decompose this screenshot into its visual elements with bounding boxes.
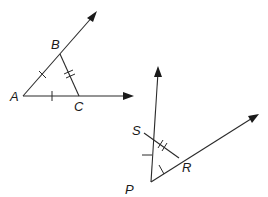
angle-p-figure: P S R (125, 66, 259, 197)
angle-a-figure: A B C (9, 11, 134, 114)
ray-ab (23, 15, 94, 96)
segment-sr (144, 133, 179, 158)
segment-bc (60, 54, 79, 96)
ray-ac-arrowhead-icon (123, 92, 134, 100)
label-b: B (51, 37, 60, 52)
label-r: R (182, 160, 191, 175)
label-a: A (9, 89, 19, 104)
ray-ps-arrowhead-icon (154, 66, 162, 77)
ray-pr-arrowhead-icon (248, 114, 259, 123)
ray-ps (151, 72, 158, 182)
label-s: S (132, 123, 141, 138)
ray-ab-arrowhead-icon (87, 11, 97, 22)
label-p: P (125, 182, 134, 197)
geometry-diagram: A B C P S R (0, 0, 268, 197)
tick-pr (159, 165, 164, 174)
label-c: C (74, 99, 84, 114)
